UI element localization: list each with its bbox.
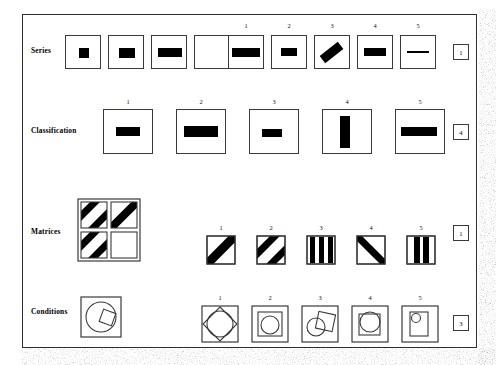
conditions-option-number-4: 4 (360, 294, 380, 301)
classification-answer-box[interactable]: 4 (453, 124, 469, 140)
matrices-option-number-1: 1 (211, 224, 231, 231)
matrices-option-4[interactable] (356, 235, 386, 265)
classification-option-1[interactable] (103, 109, 153, 154)
series-bar-1 (79, 48, 89, 58)
conditions-option-number-3: 3 (310, 294, 330, 301)
classification-bar-5 (401, 127, 437, 136)
matrices-option-number-5: 5 (411, 224, 431, 231)
page-edge-texture-right (479, 8, 496, 365)
conditions-option-number-1: 1 (210, 294, 230, 301)
matrices-option-5[interactable] (406, 235, 436, 265)
series-option-1[interactable] (228, 35, 264, 69)
conditions-option-4[interactable] (351, 305, 389, 343)
conditions-option-1[interactable] (201, 305, 239, 343)
classification-bar-3 (262, 129, 282, 137)
series-option-number-3: 3 (322, 22, 342, 29)
matrices-option-number-3: 3 (311, 224, 331, 231)
conditions-problem-cell[interactable] (80, 296, 122, 338)
series-answer-box[interactable]: 1 (453, 44, 469, 60)
classification-option-3[interactable] (249, 109, 299, 154)
matrices-option-1[interactable] (206, 235, 236, 265)
classification-option-number-4: 4 (337, 98, 357, 105)
matrices-answer-box[interactable]: 1 (453, 225, 469, 241)
classification-option-number-1: 1 (118, 98, 138, 105)
row-label-matrices: Matrices (31, 227, 61, 236)
series-bar-3 (158, 48, 182, 57)
series-option-number-5: 5 (408, 22, 428, 29)
conditions-option-number-2: 2 (260, 294, 280, 301)
matrices-option-2[interactable] (256, 235, 286, 265)
worksheet-frame: Series 1 2 3 4 5 (22, 14, 477, 348)
matrices-option-3[interactable] (306, 235, 336, 265)
series-option-3-bar (320, 42, 344, 63)
row-label-classification: Classification (31, 126, 77, 135)
classification-option-2[interactable] (176, 109, 226, 154)
matrices-option-number-2: 2 (261, 224, 281, 231)
classification-bar-4 (340, 116, 350, 148)
series-option-2-bar (281, 48, 297, 56)
series-option-number-4: 4 (365, 22, 385, 29)
series-option-2[interactable] (271, 35, 307, 69)
conditions-option-5[interactable] (401, 305, 439, 343)
conditions-option-3[interactable] (301, 305, 339, 343)
conditions-answer-box[interactable]: 3 (453, 315, 469, 331)
series-problem-cell-1[interactable] (65, 35, 101, 69)
series-problem-cell-3[interactable] (151, 35, 187, 69)
matrices-option-number-4: 4 (361, 224, 381, 231)
row-label-conditions: Conditions (31, 307, 68, 316)
series-option-4-bar (364, 48, 386, 56)
series-option-number-2: 2 (279, 22, 299, 29)
series-bar-2 (119, 48, 135, 58)
classification-bar-2 (184, 126, 218, 137)
classification-option-5[interactable] (395, 109, 445, 154)
row-label-series: Series (31, 46, 51, 55)
classification-option-number-2: 2 (191, 98, 211, 105)
conditions-option-2[interactable] (251, 305, 289, 343)
series-option-1-bar (232, 48, 260, 57)
classification-option-number-5: 5 (410, 98, 430, 105)
classification-bar-1 (116, 127, 140, 136)
series-option-5[interactable] (400, 35, 436, 69)
page-edge-texture-bottom (22, 348, 496, 365)
series-problem-cell-2[interactable] (108, 35, 144, 69)
series-option-4[interactable] (357, 35, 393, 69)
matrices-problem-grid[interactable] (77, 198, 141, 262)
series-option-number-1: 1 (236, 22, 256, 29)
conditions-option-number-5: 5 (410, 294, 430, 301)
series-option-5-bar (407, 51, 429, 53)
test-page: Series 1 2 3 4 5 (0, 0, 496, 365)
series-problem-cell-blank[interactable] (194, 35, 230, 69)
series-option-3[interactable] (314, 35, 350, 69)
classification-option-4[interactable] (322, 109, 372, 154)
classification-option-number-3: 3 (264, 98, 284, 105)
